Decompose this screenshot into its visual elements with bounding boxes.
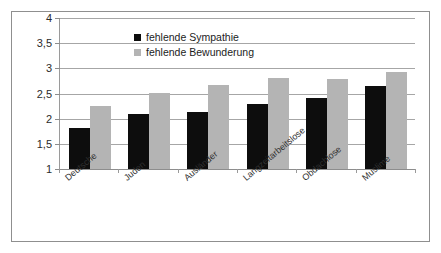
y-axis-tick-label: 3 <box>46 63 52 74</box>
y-axis-tick-label: 4 <box>46 13 52 24</box>
x-axis-tick-mark <box>415 169 416 173</box>
legend-swatch-icon <box>134 34 141 41</box>
y-axis-tick-label: 3,5 <box>37 38 52 49</box>
y-axis-tick-label: 2 <box>46 113 52 124</box>
legend-entry: fehlende Bewunderung <box>134 45 254 60</box>
legend-label: fehlende Sympathie <box>146 30 239 45</box>
bar <box>386 72 407 169</box>
bar-chart-figure: 11,522,533,54 DeutscheJudenAusländerLang… <box>0 0 441 253</box>
y-axis-tick-labels: 11,522,533,54 <box>22 18 52 169</box>
bar <box>149 93 170 169</box>
legend-entry: fehlende Sympathie <box>134 30 254 45</box>
legend-swatch-icon <box>134 49 141 56</box>
legend-label: fehlende Bewunderung <box>146 45 254 60</box>
chart-legend: fehlende Sympathiefehlende Bewunderung <box>134 30 254 60</box>
y-axis-tick-label: 1 <box>46 164 52 175</box>
y-axis-tick-label: 1,5 <box>37 138 52 149</box>
x-axis-tick-labels: DeutscheJudenAusländerLangzeitarbeitslos… <box>59 169 415 229</box>
y-axis-tick-label: 2,5 <box>37 88 52 99</box>
